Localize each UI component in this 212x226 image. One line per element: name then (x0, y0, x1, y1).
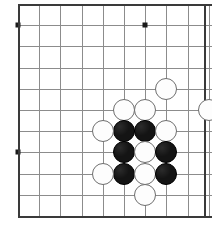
black-stone-f9[interactable] (113, 163, 135, 185)
white-stone-h7[interactable] (155, 120, 177, 142)
go-board[interactable] (0, 0, 212, 226)
white-stone-g8[interactable] (134, 141, 156, 163)
white-stone-g6[interactable] (134, 99, 156, 121)
black-stone-h8[interactable] (155, 141, 177, 163)
white-stone-f6[interactable] (113, 99, 135, 121)
white-stone-g9[interactable] (134, 163, 156, 185)
board-stones[interactable] (0, 0, 212, 226)
white-stone-j6[interactable] (198, 99, 212, 121)
white-stone-e7[interactable] (92, 120, 114, 142)
black-stone-g7[interactable] (134, 120, 156, 142)
white-stone-g10[interactable] (134, 184, 156, 206)
white-stone-h5[interactable] (155, 78, 177, 100)
white-stone-e9[interactable] (92, 163, 114, 185)
black-stone-f7[interactable] (113, 120, 135, 142)
black-stone-h9[interactable] (155, 163, 177, 185)
black-stone-f8[interactable] (113, 141, 135, 163)
